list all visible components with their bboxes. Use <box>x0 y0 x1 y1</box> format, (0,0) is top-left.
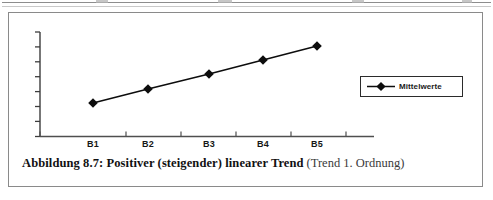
figure-box: B1 B2 B3 B4 B5 Mittelwerte Abbildung 8.7… <box>8 12 483 187</box>
scan-smudge-d <box>462 0 472 3</box>
scan-rule-top <box>2 2 491 3</box>
x-tick-label-b5: B5 <box>297 139 337 149</box>
data-point-b3 <box>204 69 214 79</box>
scan-artifacts <box>0 0 493 10</box>
data-point-b5 <box>312 41 322 51</box>
caption-title: Abbildung 8.7: Positiver (steigender) li… <box>22 156 304 170</box>
series-markers-mittelwerte <box>88 41 322 108</box>
x-tick-label-b1: B1 <box>73 139 113 149</box>
x-axis-label-row: B1 B2 B3 B4 B5 <box>9 139 484 153</box>
data-point-b1 <box>88 98 98 108</box>
legend-label-mittelwerte: Mittelwerte <box>399 82 442 91</box>
y-axis-ticks <box>35 32 40 137</box>
x-tick-label-b2: B2 <box>128 139 168 149</box>
x-axis-ticks <box>40 132 346 137</box>
chart-legend: Mittelwerte <box>360 76 463 97</box>
figure-caption: Abbildung 8.7: Positiver (steigender) li… <box>22 156 472 172</box>
data-point-b2 <box>143 84 153 94</box>
caption-subtitle: (Trend 1. Ordnung) <box>307 156 405 170</box>
scan-smudge-c <box>352 0 364 3</box>
scan-rule-second <box>2 6 491 7</box>
x-tick-label-b4: B4 <box>243 139 283 149</box>
scan-smudge-a <box>96 0 108 3</box>
scan-smudge-b <box>218 0 232 3</box>
diamond-marker-icon <box>366 81 396 92</box>
x-tick-label-b3: B3 <box>189 139 229 149</box>
data-point-b4 <box>258 55 268 65</box>
